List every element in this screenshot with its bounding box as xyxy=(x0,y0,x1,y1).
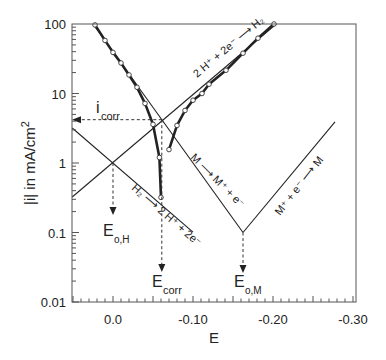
data-point-marker xyxy=(151,122,156,127)
data-point-marker xyxy=(175,123,180,128)
arrowhead-icon xyxy=(72,116,81,123)
data-point-marker xyxy=(93,23,98,28)
svg-text:E: E xyxy=(103,222,114,239)
data-point-marker xyxy=(143,101,148,106)
data-point-marker xyxy=(207,82,212,87)
svg-text:corr: corr xyxy=(101,110,120,122)
data-point-marker xyxy=(127,73,132,78)
data-point-marker xyxy=(103,38,108,43)
arrowhead-icon xyxy=(110,207,117,215)
x-axis-label: E xyxy=(209,329,219,346)
anodic-hydrogen-reaction-label: H₂ ⟶ 2 H⁺ + 2e⁻ xyxy=(130,181,204,248)
arrowhead-icon xyxy=(158,264,165,272)
data-point-marker xyxy=(200,91,205,96)
y-tick-label: 0.1 xyxy=(48,226,66,241)
series-line-3 xyxy=(243,122,335,233)
y-tick-label: 100 xyxy=(44,17,66,32)
arrowhead-icon xyxy=(240,265,247,273)
data-point-marker xyxy=(183,108,188,113)
e-om-label: E o,M xyxy=(234,273,262,296)
x-tick-label: -0.20 xyxy=(258,312,288,327)
x-tick-label: 0.0 xyxy=(104,312,122,327)
data-point-marker xyxy=(256,36,261,41)
svg-text:corr: corr xyxy=(163,284,182,296)
data-point-marker xyxy=(157,155,162,160)
i-corr-label: i corr xyxy=(96,99,120,122)
series-line-5 xyxy=(169,24,274,150)
svg-text:E: E xyxy=(152,273,163,290)
anodic-metal-reaction-label: M ⟶ M⁺ + e⁻ xyxy=(189,151,248,210)
svg-text:i: i xyxy=(96,99,100,116)
e-corr-label: E corr xyxy=(152,273,182,296)
y-tick-label: 1 xyxy=(59,156,66,171)
tafel-chart: 1001010.10.010.0-0.10-0.20-0.30 E |i| in… xyxy=(0,0,386,360)
data-point-marker xyxy=(111,50,116,55)
data-point-marker xyxy=(119,61,124,66)
svg-text:o,H: o,H xyxy=(114,234,130,245)
svg-text:o,M: o,M xyxy=(245,285,262,296)
data-point-marker xyxy=(159,195,164,200)
x-tick-label: -0.10 xyxy=(178,312,208,327)
marker-arrows xyxy=(72,116,247,273)
y-axis-label: |i| in mA/cm2 xyxy=(19,121,38,205)
data-point-marker xyxy=(191,98,196,103)
data-point-marker xyxy=(167,147,172,152)
data-point-marker xyxy=(241,51,246,56)
y-tick-label: 0.01 xyxy=(41,295,66,310)
data-point-marker xyxy=(135,85,140,90)
plot-series xyxy=(72,22,335,233)
e-oh-label: E o,H xyxy=(103,222,130,245)
data-point-marker xyxy=(224,68,229,73)
svg-text:E: E xyxy=(234,273,245,290)
cathodic-metal-reaction-label: M⁺ + e⁻ ⟶ M xyxy=(272,154,325,217)
x-tick-label: -0.30 xyxy=(338,312,368,327)
y-tick-label: 10 xyxy=(52,87,66,102)
